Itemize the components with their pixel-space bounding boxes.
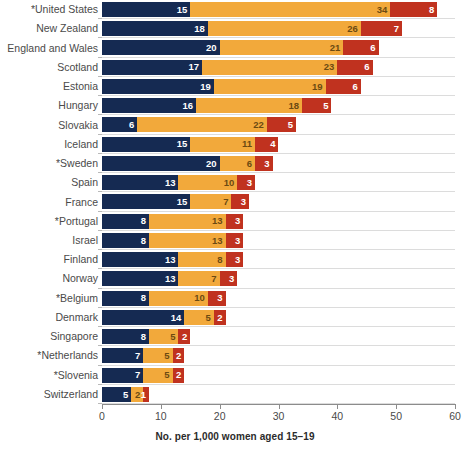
bar-segment[interactable]: 8 — [102, 233, 149, 248]
bar-segment[interactable]: 13 — [102, 271, 178, 286]
bar-row: 752 — [102, 346, 455, 365]
bar-segment[interactable]: 5 — [143, 368, 172, 383]
bar-segment[interactable]: 6 — [343, 40, 378, 55]
bar-segment-value: 8 — [141, 332, 149, 342]
bar-segment[interactable]: 7 — [102, 348, 143, 363]
bar-segment-value: 19 — [312, 82, 326, 92]
bar-segment[interactable]: 3 — [226, 252, 244, 267]
stacked-bar[interactable]: 16185 — [102, 98, 331, 113]
bar-segment[interactable]: 19 — [214, 79, 326, 94]
bar-segment[interactable]: 6 — [220, 156, 255, 171]
bar-segment[interactable]: 10 — [149, 291, 208, 306]
bar-segment[interactable]: 6 — [326, 79, 361, 94]
stacked-bar-chart: *United StatesNew ZealandEngland and Wal… — [0, 0, 470, 453]
bar-segment[interactable]: 5 — [302, 98, 331, 113]
bar-segment[interactable]: 1 — [143, 387, 149, 402]
bar-segment[interactable]: 13 — [102, 252, 178, 267]
bar-segment[interactable]: 4 — [255, 137, 279, 152]
category-label: Singapore — [2, 331, 98, 342]
bar-segment-value: 15 — [177, 197, 191, 207]
bar-segment[interactable]: 5 — [184, 310, 213, 325]
bar-segment[interactable]: 26 — [208, 21, 361, 36]
bar-segment[interactable]: 10 — [178, 175, 237, 190]
bar-segment[interactable]: 17 — [102, 60, 202, 75]
bar-segment[interactable]: 8 — [102, 214, 149, 229]
bar-segment[interactable]: 13 — [102, 175, 178, 190]
bar-segment-value: 3 — [235, 255, 243, 265]
bar-segment[interactable]: 8 — [102, 291, 149, 306]
bar-segment[interactable]: 7 — [102, 368, 143, 383]
bar-segment[interactable]: 18 — [102, 21, 208, 36]
stacked-bar[interactable]: 15348 — [102, 2, 437, 17]
bar-segment-value: 7 — [135, 351, 143, 361]
stacked-bar[interactable]: 752 — [102, 348, 184, 363]
bar-segment-value: 11 — [242, 139, 255, 149]
stacked-bar[interactable]: 8133 — [102, 233, 243, 248]
bar-segment[interactable]: 2 — [173, 348, 185, 363]
bar-segment-value: 26 — [347, 24, 361, 34]
stacked-bar[interactable]: 1383 — [102, 252, 243, 267]
stacked-bar[interactable]: 6225 — [102, 117, 296, 132]
stacked-bar[interactable]: 8103 — [102, 291, 226, 306]
stacked-bar[interactable]: 13103 — [102, 175, 255, 190]
bar-segment[interactable]: 3 — [226, 214, 244, 229]
stacked-bar[interactable]: 19196 — [102, 79, 361, 94]
bar-segment[interactable]: 5 — [143, 348, 172, 363]
bar-segment[interactable]: 3 — [231, 194, 249, 209]
bar-segment-value: 18 — [194, 24, 208, 34]
bar-segment[interactable]: 8 — [102, 329, 149, 344]
bar-segment[interactable]: 7 — [190, 194, 231, 209]
bar-segment[interactable]: 15 — [102, 137, 190, 152]
bar-segment[interactable]: 14 — [102, 310, 184, 325]
stacked-bar[interactable]: 20216 — [102, 40, 379, 55]
bar-segment[interactable]: 16 — [102, 98, 196, 113]
bar-segment[interactable]: 20 — [102, 156, 220, 171]
bar-segment[interactable]: 8 — [390, 2, 437, 17]
stacked-bar[interactable]: 8133 — [102, 214, 243, 229]
bar-segment[interactable]: 15 — [102, 2, 190, 17]
bar-segment[interactable]: 11 — [190, 137, 255, 152]
bar-segment[interactable]: 23 — [202, 60, 337, 75]
stacked-bar[interactable]: 18267 — [102, 21, 402, 36]
bar-segment[interactable]: 5 — [267, 117, 296, 132]
bar-segment[interactable]: 34 — [190, 2, 390, 17]
bar-segment[interactable]: 5 — [102, 387, 131, 402]
bar-segment[interactable]: 6 — [102, 117, 137, 132]
bar-segment[interactable]: 3 — [220, 271, 238, 286]
bar-segment[interactable]: 2 — [173, 368, 185, 383]
stacked-bar[interactable]: 1373 — [102, 271, 237, 286]
bar-segment[interactable]: 5 — [149, 329, 178, 344]
bar-segment[interactable]: 3 — [237, 175, 255, 190]
stacked-bar[interactable]: 521 — [102, 387, 149, 402]
plot-area: 1534818267202161723619196161856225151142… — [102, 0, 455, 404]
bar-segment[interactable]: 2 — [214, 310, 226, 325]
bar-segment[interactable]: 21 — [220, 40, 344, 55]
bar-segment[interactable]: 7 — [178, 271, 219, 286]
bar-segment[interactable]: 22 — [137, 117, 266, 132]
bar-segment[interactable]: 19 — [102, 79, 214, 94]
x-tick-label: 10 — [155, 411, 167, 422]
bar-segment[interactable]: 20 — [102, 40, 220, 55]
bar-segment[interactable]: 3 — [208, 291, 226, 306]
bar-segment[interactable]: 6 — [337, 60, 372, 75]
category-label: England and Wales — [2, 43, 98, 54]
bar-segment[interactable]: 13 — [149, 214, 225, 229]
stacked-bar[interactable]: 17236 — [102, 60, 373, 75]
bar-row: 8133 — [102, 231, 455, 250]
bar-segment[interactable]: 3 — [255, 156, 273, 171]
bar-segment[interactable]: 8 — [178, 252, 225, 267]
x-axis-title: No. per 1,000 women aged 15–19 — [0, 431, 470, 442]
stacked-bar[interactable]: 1452 — [102, 310, 226, 325]
bar-segment-value: 5 — [164, 370, 172, 380]
bar-segment[interactable]: 7 — [361, 21, 402, 36]
bar-segment[interactable]: 18 — [196, 98, 302, 113]
stacked-bar[interactable]: 1573 — [102, 194, 249, 209]
bar-segment[interactable]: 2 — [178, 329, 190, 344]
stacked-bar[interactable]: 852 — [102, 329, 190, 344]
stacked-bar[interactable]: 15114 — [102, 137, 278, 152]
bar-segment[interactable]: 3 — [226, 233, 244, 248]
bar-segment[interactable]: 15 — [102, 194, 190, 209]
stacked-bar[interactable]: 2063 — [102, 156, 273, 171]
stacked-bar[interactable]: 752 — [102, 368, 184, 383]
bar-segment[interactable]: 13 — [149, 233, 225, 248]
